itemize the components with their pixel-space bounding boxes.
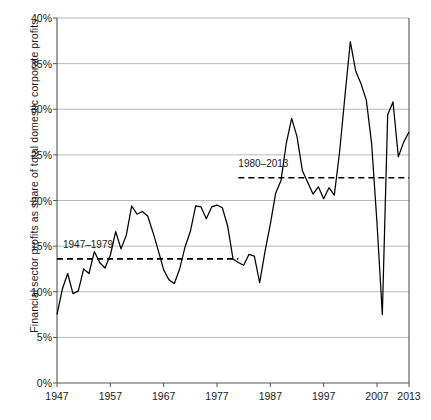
x-axis-tick-labels: 19471957196719771987199720072013 <box>0 390 431 410</box>
annotation-label-period-1: 1947–1979 <box>63 239 113 250</box>
series-polyline <box>57 42 409 315</box>
gridlines <box>57 18 409 337</box>
x-tick-label: 1967 <box>152 390 175 402</box>
x-axis-ticks <box>53 18 409 387</box>
x-tick-label: 2007 <box>365 390 388 402</box>
x-tick-label: 1977 <box>205 390 228 402</box>
x-tick-label: 1947 <box>45 390 68 402</box>
annotation-label-period-2: 1980–2013 <box>238 158 288 169</box>
chart-plot-area <box>0 0 431 420</box>
x-tick-label: 1957 <box>99 390 122 402</box>
data-series-line <box>57 42 409 315</box>
x-tick-label: 1987 <box>259 390 282 402</box>
x-tick-label: 1997 <box>312 390 335 402</box>
x-tick-label: 2013 <box>397 390 420 402</box>
chart-container: Financial sector profits as share of tot… <box>0 0 431 420</box>
